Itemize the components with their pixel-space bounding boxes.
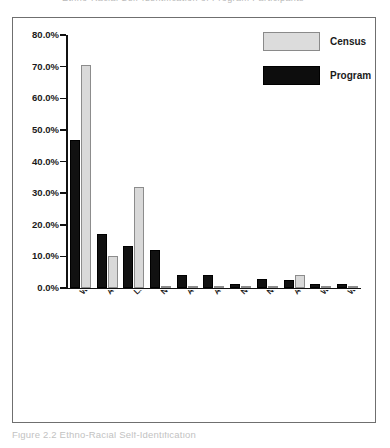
- legend-item-census: Census: [263, 30, 373, 52]
- y-axis-tick-label: 10.0%: [32, 251, 59, 261]
- x-axis-label: White: [78, 290, 100, 296]
- y-axis-tick: [60, 161, 66, 163]
- bar-chart: 0.0%10.0%20.0%30.0%40.0%50.0%60.0%70.0%8…: [13, 18, 377, 424]
- bar-census: [161, 286, 171, 288]
- y-axis-tick: [60, 224, 66, 226]
- bar-program: [150, 250, 160, 288]
- bar-group: [147, 35, 174, 288]
- bar-program: [337, 284, 347, 288]
- bar-program: [70, 140, 80, 288]
- y-axis-tick: [60, 256, 66, 258]
- bar-group: [201, 35, 228, 288]
- bar-program: [310, 284, 320, 288]
- bar-program: [97, 234, 107, 288]
- y-axis-tick: [60, 66, 66, 68]
- bar-group: [120, 35, 147, 288]
- bar-census: [321, 286, 331, 288]
- x-axis-label: Asian: [292, 290, 314, 296]
- figure-caption: Figure 2.2 Ethno-Racial Self-Identificat…: [12, 432, 382, 448]
- x-axis-category-labels: WhiteAfrican AmericanLatinaNot ProvidedA…: [13, 290, 377, 422]
- legend-swatch-program-icon: [263, 66, 320, 85]
- y-axis-tick: [60, 192, 66, 194]
- bar-program: [177, 275, 187, 288]
- y-axis-tick-label: 50.0%: [32, 125, 59, 135]
- y-axis-tick-label: 30.0%: [32, 188, 59, 198]
- chart-legend: Census Program: [263, 30, 373, 98]
- bar-census: [214, 286, 224, 288]
- bar-program: [284, 280, 294, 288]
- bar-group: [67, 35, 94, 288]
- x-axis-label: Latina: [132, 290, 156, 296]
- bar-census: [108, 256, 118, 288]
- bar-census: [295, 275, 305, 288]
- y-axis-tick: [60, 129, 66, 131]
- bar-census: [241, 286, 251, 288]
- top-cropped-text-label: Ethno-Racial Self-Identification of Prog…: [62, 0, 304, 3]
- bar-program: [123, 246, 133, 288]
- x-axis-label: Native American and White: [265, 290, 348, 296]
- y-axis-tick-label: 40.0%: [32, 157, 59, 167]
- y-axis-tick-label: 20.0%: [32, 220, 59, 230]
- y-axis-tick: [60, 34, 66, 36]
- bar-group: [94, 35, 121, 288]
- y-axis-tick-label: 70.0%: [32, 62, 59, 72]
- legend-label-census: Census: [330, 36, 366, 47]
- y-axis-tick-label: 80.0%: [32, 30, 59, 40]
- bar-census: [268, 286, 278, 288]
- bar-group: [174, 35, 201, 288]
- x-axis-label: White/Middle Eastern Jewish: [346, 290, 377, 296]
- figure-caption-text: Figure 2.2 Ethno-Racial Self-Identificat…: [12, 432, 196, 440]
- legend-item-program: Program: [263, 64, 373, 86]
- bar-census: [188, 286, 198, 288]
- y-axis-tick: [60, 98, 66, 100]
- bar-program: [230, 284, 240, 288]
- figure-frame: 0.0%10.0%20.0%30.0%40.0%50.0%60.0%70.0%8…: [12, 17, 376, 423]
- bar-census: [134, 187, 144, 288]
- bar-program: [257, 279, 267, 288]
- bar-program: [203, 275, 213, 288]
- legend-swatch-census-icon: [263, 32, 320, 51]
- y-axis-tick: [60, 287, 66, 289]
- bar-census: [81, 65, 91, 288]
- bar-group: [227, 35, 254, 288]
- top-cropped-text: Ethno-Racial Self-Identification of Prog…: [0, 0, 390, 8]
- legend-label-program: Program: [330, 70, 371, 81]
- bar-census: [348, 286, 358, 288]
- y-axis-tick-label: 60.0%: [32, 93, 59, 103]
